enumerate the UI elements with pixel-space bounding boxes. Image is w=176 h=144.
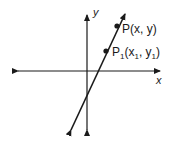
point-p1: [103, 48, 108, 53]
point-p: [114, 23, 119, 28]
coordinate-plane: y x P(x, y) P1(x1, y1): [0, 0, 176, 144]
point-p-label: P(x, y): [122, 22, 157, 36]
y-axis-label: y: [92, 6, 100, 18]
line-through-points: [71, 14, 125, 130]
x-axis-label: x: [155, 74, 162, 86]
point-p1-label: P1(x1, y1): [112, 45, 160, 61]
